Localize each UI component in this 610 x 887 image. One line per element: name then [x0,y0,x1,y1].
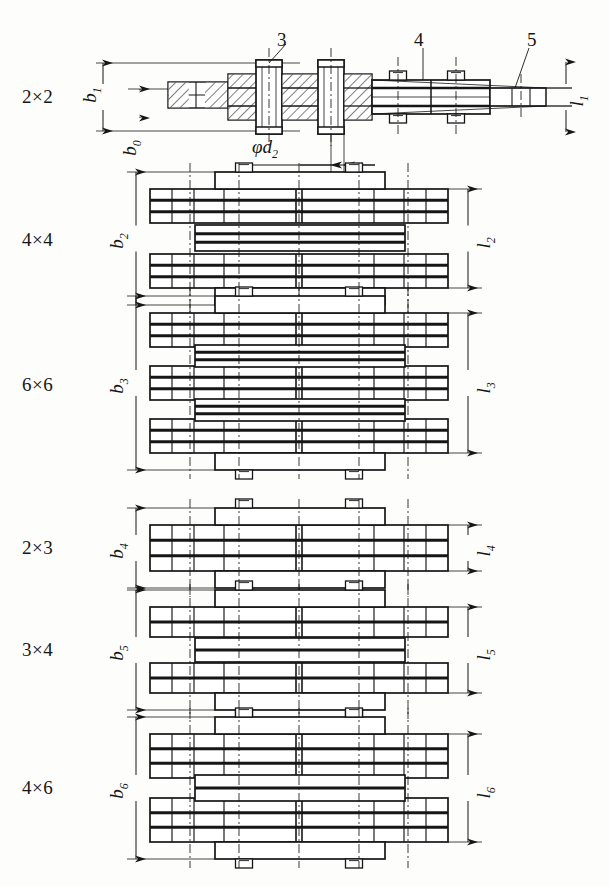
drawing-sheet: 2×2 4×4 6×6 2×3 3×4 4×6 b1 b0 b2 b3 b4 b… [0,0,610,887]
callout-5: 5 [527,29,537,51]
plate-cap-top [215,590,385,607]
dim-label-b6: b6 [106,783,132,799]
row-label-3x4: 3×4 [22,639,53,661]
dim-label-l2: l2 [473,237,499,248]
hatch-tail-b [205,83,227,108]
row-label-2x2: 2×2 [22,86,53,108]
leader-callout-5 [515,48,529,88]
drawing-vector-layer [0,0,610,887]
row-label-6x6: 6×6 [22,374,53,396]
plate-cap-top [215,717,385,734]
callout-4: 4 [414,29,424,51]
plate-cap-top [215,172,385,189]
dim-label-b0: b0 [119,140,145,156]
dim-label-b5: b5 [106,645,132,661]
plate-cap-top [215,508,385,525]
plate-band-inner [195,345,405,367]
dim-label-l4: l4 [473,545,499,556]
dim-label-b2: b2 [106,233,132,249]
hatch-stack-mid [283,75,320,120]
callout-3: 3 [277,29,287,51]
dim-label-phi-d2: φd2 [252,136,278,162]
plate-band-inner [195,225,405,251]
dim-label-l6: l6 [473,787,499,798]
row-label-2x3: 2×3 [22,537,53,559]
hatch-stack-right [345,75,372,120]
dim-label-b4: b4 [106,543,132,559]
dim-label-l3: l3 [473,382,499,393]
plate-cap-bottom [215,842,385,859]
plate-cap-bottom [215,453,385,470]
row-label-4x6: 4×6 [22,777,53,799]
plate-tail-right [490,88,546,106]
hatch-tail-a [169,83,189,108]
dim-label-b3: b3 [106,378,132,394]
dim-label-l5: l5 [473,649,499,660]
dim-label-l1: l1 [566,95,592,106]
dim-label-b1: b1 [79,87,105,103]
plate-band-inner [195,399,405,421]
plate-cap-top [215,296,385,313]
row-label-4x4: 4×4 [22,229,53,251]
plate-band [150,525,448,571]
